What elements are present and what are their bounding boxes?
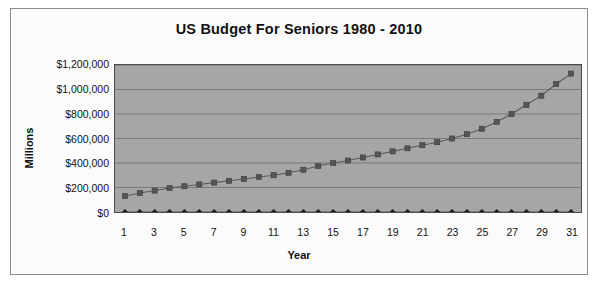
x-tick-label: 29 [530,226,554,238]
data-point-marker [256,209,262,212]
y-tick-label: $1,200,000 [9,59,109,69]
data-point-marker [405,146,410,151]
data-point-marker [524,102,529,107]
data-point-marker [479,209,485,212]
data-point-marker [464,209,470,212]
data-point-marker [419,209,425,212]
data-point-marker [137,209,143,212]
data-point-marker [241,209,247,212]
data-point-marker [345,158,350,163]
data-point-marker [464,132,469,137]
x-tick-label: 1 [112,226,136,238]
data-point-marker [449,136,454,141]
x-tick-label: 15 [321,226,345,238]
y-tick-label: $200,000 [9,183,109,193]
x-tick-label: 11 [261,226,285,238]
data-point-marker [390,149,395,154]
data-point-marker [122,194,127,199]
data-point-marker [182,184,187,189]
data-point-marker [553,209,559,212]
data-point-marker [404,209,410,212]
data-point-marker [316,163,321,168]
data-point-marker [197,182,202,187]
data-point-marker [166,209,172,212]
x-tick-label: 7 [202,226,226,238]
data-point-marker [152,188,157,193]
x-tick-label: 31 [560,226,584,238]
data-point-marker [568,209,574,212]
y-tick-label: $1,000,000 [9,84,109,94]
data-point-marker [435,140,440,145]
y-tick-label: $800,000 [9,109,109,119]
x-tick-label: 17 [351,226,375,238]
data-point-marker [137,190,142,195]
data-point-marker [211,209,217,212]
data-point-marker [375,209,381,212]
data-point-marker [390,209,396,212]
data-point-marker [271,209,277,212]
data-point-marker [226,209,232,212]
data-point-marker [285,209,291,212]
data-point-marker [271,173,276,178]
x-axis-tick-labels: 135791113151719212325272931 [114,226,582,242]
data-point-marker [167,186,172,191]
data-point-marker [494,209,500,212]
data-point-marker [212,180,217,185]
data-point-marker [434,209,440,212]
data-point-marker [241,176,246,181]
x-tick-label: 21 [411,226,435,238]
x-tick-label: 5 [172,226,196,238]
data-point-marker [331,160,336,165]
y-tick-label: $600,000 [9,134,109,144]
data-point-marker [449,209,455,212]
x-tick-label: 9 [231,226,255,238]
data-point-marker [360,209,366,212]
chart-title: US Budget For Seniors 1980 - 2010 [11,21,587,37]
plot-svg [115,65,581,212]
data-point-marker [494,119,499,124]
data-point-marker [152,209,158,212]
data-point-marker [508,209,514,212]
data-point-marker [300,209,306,212]
data-point-marker [554,81,559,86]
data-point-marker [509,111,514,116]
y-axis-tick-labels: $0$200,000$400,000$600,000$800,000$1,000… [5,64,109,215]
x-tick-label: 23 [441,226,465,238]
data-point-marker [226,178,231,183]
data-point-marker [256,175,261,180]
data-point-marker [315,209,321,212]
x-tick-label: 19 [381,226,405,238]
x-tick-label: 25 [470,226,494,238]
data-point-marker [375,152,380,157]
y-tick-label: $0 [9,208,109,218]
data-point-marker [330,209,336,212]
data-point-marker [479,126,484,131]
data-point-marker [301,167,306,172]
plot-area [114,64,582,213]
data-point-marker [420,143,425,148]
data-point-marker [345,209,351,212]
x-tick-label: 27 [500,226,524,238]
data-point-marker [360,155,365,160]
x-tick-label: 13 [291,226,315,238]
data-point-marker [286,170,291,175]
data-point-marker [568,71,573,76]
data-point-marker [539,93,544,98]
data-point-marker [181,209,187,212]
data-point-marker [122,209,128,212]
y-tick-label: $400,000 [9,158,109,168]
chart-frame: US Budget For Seniors 1980 - 2010 Millio… [10,8,588,275]
series-line-budget [125,74,571,197]
x-axis-title: Year [11,249,587,261]
data-point-marker [196,209,202,212]
x-tick-label: 3 [142,226,166,238]
data-point-marker [523,209,529,212]
data-point-marker [538,209,544,212]
